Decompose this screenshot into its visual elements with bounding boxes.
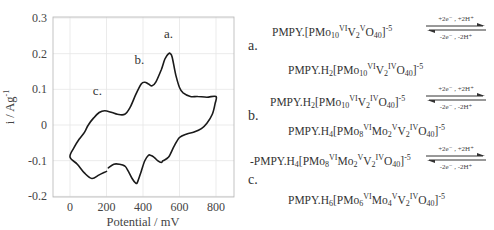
y-axis-ticks: 0.30.20.10-0.1-0.2 xyxy=(28,11,47,203)
reactant-formula: PMPY.H2[PMo10VIV2IVO40]-5 xyxy=(270,94,405,110)
x-tick-label: 0 xyxy=(67,200,73,214)
equilibrium-arrow-icon: +2e⁻ , +2H⁺-2e⁻ , -2H⁺ xyxy=(421,85,491,115)
x-tick-label: 200 xyxy=(98,200,116,214)
x-axis-ticks: 0200400600800 xyxy=(67,200,225,214)
product-formula: PMPY.H2[PMo10VIV2IVO40]-5 xyxy=(288,62,423,78)
forward-condition: +2e⁻ , +2H⁺ xyxy=(421,145,491,153)
reactant-formula: PMPY.[PMo10VIV2VO40]-5 xyxy=(272,24,392,40)
product-formula: PMPY.H6[PMo6VIMo4VV2IVO40]-5 xyxy=(288,192,445,208)
reverse-condition: -2e⁻ , -2H⁺ xyxy=(421,33,491,41)
reverse-condition: -2e⁻ , -2H⁺ xyxy=(421,163,491,171)
peak-label: c. xyxy=(93,83,102,98)
x-tick-label: 800 xyxy=(207,200,225,214)
product-formula: PMPY.H4[PMo8VIMo2VV2IVO40]-5 xyxy=(288,123,445,139)
peak-labels: a.b.c. xyxy=(93,26,173,98)
equilibrium-arrow-icon: +2e⁻ , +2H⁺-2e⁻ , -2H⁺ xyxy=(421,145,491,175)
peak-label: b. xyxy=(134,52,144,67)
plot-frame xyxy=(53,17,234,197)
forward-condition: +2e⁻ , +2H⁺ xyxy=(421,15,491,23)
reaction-letter: c. xyxy=(248,172,258,188)
peak-label: a. xyxy=(164,26,173,41)
y-axis-label: i / Ag-1 xyxy=(2,90,17,124)
reactant-formula: -PMPY.H4[PMo8VIMo2VV2IVO40]-5 xyxy=(250,153,411,169)
y-tick-label: -0.2 xyxy=(28,189,47,203)
forward-condition: +2e⁻ , +2H⁺ xyxy=(421,85,491,93)
y-tick-label: -0.1 xyxy=(28,154,47,168)
x-tick-label: 400 xyxy=(134,200,152,214)
reaction-letter: a. xyxy=(248,38,258,54)
y-tick-label: 0.3 xyxy=(32,11,47,25)
grid-lines xyxy=(53,17,234,197)
y-tick-label: 0.1 xyxy=(32,82,47,96)
reaction-letter: b. xyxy=(248,108,259,124)
y-tick-label: 0 xyxy=(41,118,47,132)
y-tick-label: 0.2 xyxy=(32,47,47,61)
equilibrium-arrow-icon: +2e⁻ , +2H⁺-2e⁻ , -2H⁺ xyxy=(421,15,491,45)
reverse-condition: -2e⁻ , -2H⁺ xyxy=(421,103,491,111)
x-tick-label: 600 xyxy=(171,200,189,214)
x-axis-label: Potential / mV xyxy=(107,215,180,229)
cv-chart: 0.30.20.10-0.1-0.2 0200400600800 a.b.c. … xyxy=(0,0,245,230)
